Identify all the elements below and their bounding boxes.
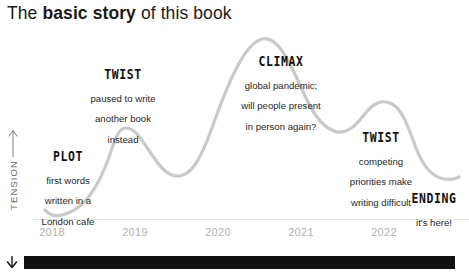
y-axis: TENSION [4, 128, 22, 220]
annotation-climax: CLIMAX global pandemic; will people pres… [241, 55, 320, 135]
x-tick-2021: 2021 [288, 226, 314, 238]
annotation-twist-first-heading: TWIST [93, 65, 153, 84]
annotation-twist-second: TWIST competing priorities make writing … [350, 131, 412, 211]
annotation-twist-second-body: competing priorities make writing diffic… [350, 156, 412, 208]
x-tick-2020: 2020 [205, 226, 231, 238]
annotation-plot-heading: PLOT [44, 147, 93, 166]
x-tick-2022: 2022 [371, 226, 397, 238]
annotation-twist-first-body: paused to write another book instead [90, 93, 155, 145]
annotation-climax-body: global pandemic; will people present in … [241, 80, 320, 132]
y-axis-label: TENSION [8, 160, 19, 210]
down-arrow-icon [4, 255, 20, 271]
x-axis-baseline [33, 219, 469, 220]
chart-plot-area: TENSION 2018 2019 2020 2021 2022 PLOT fi… [0, 0, 469, 274]
bottom-bar [24, 256, 455, 269]
annotation-plot-body: first words written in a London cafe [42, 175, 95, 227]
x-tick-2019: 2019 [122, 226, 148, 238]
annotation-ending-heading: ENDING [412, 189, 457, 208]
annotation-plot: PLOT first words written in a London caf… [42, 150, 95, 230]
annotation-twist-first: TWIST paused to write another book inste… [90, 68, 155, 148]
annotation-ending: ENDING it's here! [410, 192, 459, 231]
story-arc-figure: The basic story of this book TENSION 201… [0, 0, 469, 274]
up-arrow-icon [7, 128, 19, 158]
annotation-ending-body: it's here! [416, 217, 452, 228]
annotation-climax-heading: CLIMAX [244, 52, 317, 71]
annotation-twist-second-heading: TWIST [352, 128, 409, 147]
